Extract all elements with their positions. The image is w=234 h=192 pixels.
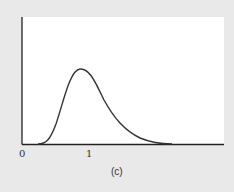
chart-svg [0,0,234,192]
density-curve [38,69,172,144]
x-tick-1: 1 [86,148,92,159]
x-tick-0: 0 [19,148,25,159]
figure-caption: (c) [111,166,123,177]
